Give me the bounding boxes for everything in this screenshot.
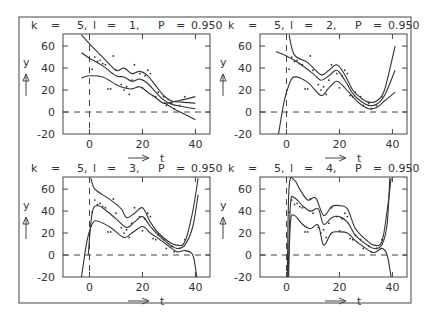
data-point [349, 95, 351, 97]
x-tick-label: 0 [283, 281, 290, 294]
data-point [173, 108, 175, 110]
data-point [120, 227, 122, 229]
data-point [163, 96, 165, 98]
panel-title-k: 5, [77, 19, 88, 32]
panel-title-k-label: k [228, 162, 235, 175]
data-point [331, 64, 333, 66]
panel-title-eq: = [107, 162, 116, 175]
panel-title-l-label: l [93, 162, 96, 175]
data-point [301, 207, 303, 209]
y-tick-label: -20 [37, 271, 55, 284]
x-tick-label: 20 [135, 281, 149, 294]
plot-content [260, 177, 407, 277]
data-point [362, 248, 364, 250]
curve-fit [288, 178, 390, 277]
data-point [296, 202, 298, 204]
panel-title-eq: = [373, 19, 382, 32]
data-point [307, 88, 309, 90]
data-point [123, 89, 125, 91]
data-point [320, 89, 322, 91]
data-point [368, 102, 370, 104]
panel-title-eq: = [107, 19, 116, 32]
data-point [144, 75, 146, 77]
data-point [112, 198, 114, 200]
data-point [184, 239, 186, 241]
panel-title-P-label: P [158, 162, 165, 175]
data-point [150, 216, 152, 218]
curve-fit [276, 52, 395, 106]
data-point [352, 96, 354, 98]
data-point [341, 218, 343, 220]
panel-title-eq: = [248, 19, 257, 32]
data-point [110, 231, 112, 233]
panel-title-l: 2, [326, 19, 337, 32]
data-point [368, 245, 370, 247]
panel-title-l-label: l [290, 19, 293, 32]
panel-title-l-label: l [290, 162, 293, 175]
data-point [301, 64, 303, 66]
data-point [144, 218, 146, 220]
data-point [139, 73, 141, 75]
y-axis-label: y [23, 56, 30, 69]
data-point [347, 216, 349, 218]
x-tick-label: 40 [385, 138, 399, 151]
data-point [309, 198, 311, 200]
y-axis-label: y [220, 199, 227, 212]
y-tick-label: 60 [238, 40, 252, 53]
data-point [328, 222, 330, 224]
data-point [107, 231, 109, 233]
curve-upper-band [82, 35, 196, 103]
data-point [294, 61, 296, 63]
data-point [99, 59, 101, 61]
y-tick-label: 40 [41, 205, 55, 218]
curve-lower-band [279, 77, 396, 134]
y-tick-label: 60 [41, 40, 55, 53]
data-point [131, 79, 133, 81]
data-point [288, 211, 290, 213]
data-point [165, 105, 167, 107]
panel-title-l: 1, [129, 19, 140, 32]
data-point [120, 84, 122, 86]
data-point [309, 55, 311, 57]
figure: k=5,l=1,P=0.9506040200-2002040tyk=5,l=2,… [0, 0, 425, 318]
data-point [288, 68, 290, 70]
data-point [312, 69, 314, 71]
data-point [102, 63, 104, 65]
data-point [165, 248, 167, 250]
data-point [97, 204, 99, 206]
y-tick-label: 60 [41, 183, 55, 196]
data-point [376, 248, 378, 250]
data-point [104, 207, 106, 209]
x-tick-label: 40 [188, 281, 202, 294]
panel-title-P: 0.950 [191, 19, 223, 32]
curve-upper-band [289, 35, 395, 102]
panel-title-eq: = [51, 19, 60, 32]
y-tick-label: 20 [41, 227, 55, 240]
data-point [128, 94, 130, 96]
data-point [184, 96, 186, 98]
data-point [171, 102, 173, 104]
data-point [155, 96, 157, 98]
data-point [126, 86, 128, 88]
data-point [320, 232, 322, 234]
data-point [115, 212, 117, 214]
data-point [179, 105, 181, 107]
x-tick-label: 0 [86, 138, 93, 151]
x-axis-label: t [357, 295, 362, 308]
data-point [112, 55, 114, 57]
y-tick-label: 40 [238, 205, 252, 218]
data-point [376, 105, 378, 107]
panel-title-eq: = [176, 162, 185, 175]
data-point [107, 88, 109, 90]
data-point [307, 231, 309, 233]
data-point [157, 234, 159, 236]
data-point [360, 239, 362, 241]
y-tick-label: 20 [41, 84, 55, 97]
data-point [344, 212, 346, 214]
x-tick-label: 0 [86, 281, 93, 294]
y-tick-label: 0 [245, 249, 252, 262]
panel-title-eq: = [304, 162, 313, 175]
x-tick-label: 40 [385, 281, 399, 294]
data-point [370, 108, 372, 110]
data-point [173, 251, 175, 253]
